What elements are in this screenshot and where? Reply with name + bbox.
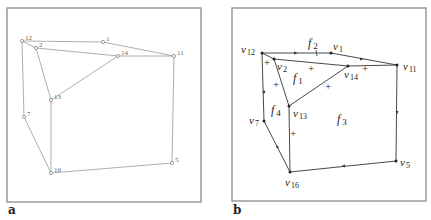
vertex-dot: [395, 160, 398, 163]
arrow-icon: [294, 52, 298, 55]
edge: [51, 56, 118, 100]
panel-b-label: b: [233, 203, 241, 217]
vertex-marker: [101, 40, 104, 43]
edge: [36, 48, 51, 100]
panel-a-graph: 12211411137165: [7, 8, 201, 202]
edge: [172, 56, 174, 163]
edge: [22, 41, 103, 42]
plus-sign: +: [308, 62, 314, 74]
plus-sign: +: [325, 80, 331, 92]
vertex-dot: [289, 171, 292, 174]
vertex-label: 14: [121, 49, 129, 57]
vertex-label: v7: [249, 114, 259, 128]
vertex-label: v11: [403, 60, 417, 74]
figure-canvas: 12211411137165 v12v2v1v14v11v13v7v16v5f1…: [0, 0, 431, 220]
vertex-marker: [172, 54, 175, 57]
vertex-label: 1: [106, 35, 110, 43]
edge: [22, 41, 24, 117]
face-label: f4: [271, 103, 281, 118]
vertex-label: v2: [277, 60, 287, 74]
vertex-label: 12: [25, 34, 33, 42]
edge: [22, 41, 36, 48]
vertex-label: 16: [54, 166, 62, 174]
vertex-label: v12: [241, 43, 255, 57]
face-label: f1: [293, 71, 303, 86]
vertex-marker: [20, 39, 23, 42]
vertex-marker: [49, 98, 52, 101]
vertex-label: 11: [177, 49, 184, 57]
face-label: f2: [308, 36, 318, 51]
vertex-marker: [170, 161, 173, 164]
vertex-label: v1: [333, 40, 343, 54]
vertex-dot: [288, 105, 291, 108]
arrow-icon: [396, 111, 399, 115]
vertex-label: 7: [27, 110, 31, 118]
plus-sign: +: [273, 78, 279, 90]
vertex-label: 5: [175, 156, 179, 164]
panel-a-frame: [7, 8, 201, 202]
plus-sign: +: [264, 56, 270, 68]
vertex-dot: [263, 120, 266, 123]
edge: [348, 65, 397, 66]
edge: [289, 66, 348, 106]
edge: [103, 42, 174, 56]
vertex-marker: [22, 115, 25, 118]
vertex-label: v5: [400, 156, 410, 170]
plus-sign: +: [290, 127, 296, 139]
panel-a-label: a: [8, 203, 16, 217]
vertex-label: 2: [39, 41, 43, 49]
vertex-marker: [49, 171, 52, 174]
vertex-label: v13: [293, 107, 307, 121]
plus-sign: +: [362, 62, 368, 74]
vertex-dot: [396, 64, 399, 67]
panel-b-graph: v12v2v1v14v11v13v7v16v5f1f2f3f4++++++: [232, 8, 426, 201]
vertex-label: 13: [54, 93, 62, 101]
vertex-marker: [116, 54, 119, 57]
vertex-dot: [273, 58, 276, 61]
face-label: f3: [337, 112, 347, 127]
vertex-label: v14: [344, 68, 358, 82]
vertex-marker: [34, 46, 37, 49]
edge: [24, 117, 51, 173]
edge: [51, 163, 172, 173]
vertex-dot: [261, 52, 264, 55]
edge: [289, 106, 290, 172]
arrow-icon: [360, 58, 364, 61]
edge: [36, 48, 118, 56]
vertex-label: v16: [285, 176, 299, 190]
